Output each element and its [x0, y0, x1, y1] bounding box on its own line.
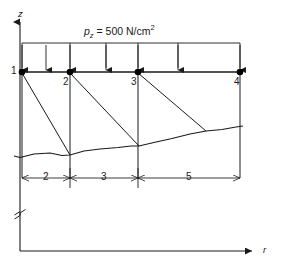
- z-axis: [15, 22, 26, 251]
- load-unit-exponent: 2: [151, 23, 155, 32]
- dimension-line: [22, 168, 240, 188]
- node-marker-1: [19, 69, 26, 76]
- node-label-2: 2: [63, 77, 69, 87]
- dimension-label-1: 2: [43, 172, 49, 182]
- node-marker-4: [237, 69, 244, 76]
- r-axis-label: r: [263, 245, 266, 255]
- z-axis-label: z: [18, 9, 23, 19]
- diagonal-members: [22, 73, 206, 155]
- node-label-3: 3: [131, 77, 137, 87]
- diagram-canvas: [0, 0, 283, 269]
- node-marker-2: [67, 69, 74, 76]
- load-arrows: [22, 45, 240, 70]
- node-marker-3: [135, 69, 142, 76]
- load-value: 500: [106, 25, 124, 37]
- load-equals: =: [97, 25, 103, 37]
- load-subscript: z: [90, 31, 94, 40]
- dimension-label-2: 3: [101, 172, 107, 182]
- node-label-4: 4: [234, 77, 240, 87]
- distributed-load-label: pz = 500 N/cm2: [84, 24, 155, 39]
- load-unit: N/cm: [126, 25, 151, 37]
- load-band: [22, 43, 240, 68]
- node-label-1: 1: [11, 66, 17, 76]
- figure-container: z r pz = 500 N/cm2 1 2 3 4 2 3 5: [0, 0, 283, 269]
- element-verticals: [22, 72, 240, 178]
- soil-boundary-line: [14, 126, 243, 158]
- dimension-label-3: 5: [186, 172, 192, 182]
